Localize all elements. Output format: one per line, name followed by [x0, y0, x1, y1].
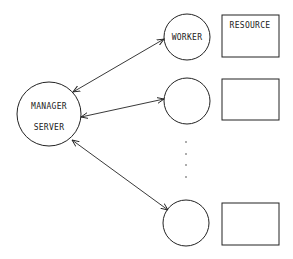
resource-box-2 [222, 79, 279, 120]
manager-server-node: MANAGER SERVER [17, 82, 81, 146]
link-arrow-3 [72, 140, 168, 210]
server-label: SERVER [34, 123, 65, 132]
manager-label: MANAGER [31, 102, 67, 111]
resource-label: RESOURCE [230, 21, 271, 30]
link-arrow-2 [81, 99, 164, 117]
resource-box-1: RESOURCE [222, 15, 279, 57]
resource-box-n [222, 203, 279, 245]
link-arrow-1 [73, 39, 164, 92]
worker-node-2 [164, 78, 210, 124]
worker-label: WORKER [172, 33, 203, 42]
worker-node-n [163, 200, 209, 246]
ellipsis-dots [185, 141, 187, 178]
manager-worker-diagram: MANAGER SERVER WORKER RESOURCE [0, 0, 293, 259]
worker-node-1: WORKER [164, 14, 210, 60]
